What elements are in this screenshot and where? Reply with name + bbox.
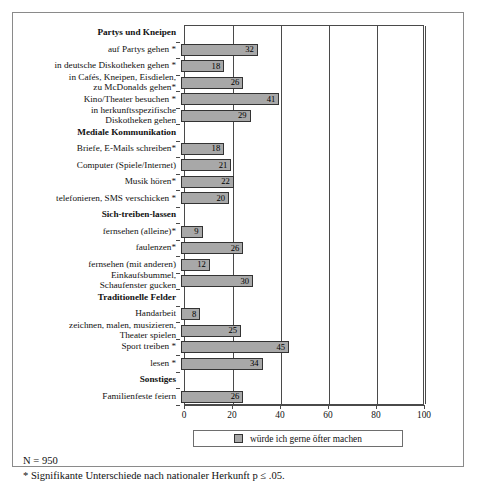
category-header-label: Partys und Kneipen — [27, 28, 180, 38]
bar-zone: 32 — [180, 42, 420, 59]
bar: 26 — [181, 242, 243, 254]
bar-zone: 21 — [180, 157, 420, 174]
bar: 30 — [181, 275, 253, 287]
x-tick-label-40: 40 — [275, 410, 284, 421]
row-label: auf Partys gehen * — [27, 45, 180, 55]
chart-row: in Cafés, Kneipen, Eisdielen, zu McDonal… — [27, 75, 424, 92]
bar-value-label: 20 — [216, 194, 228, 203]
category-header-row: Traditionelle Felder — [27, 289, 424, 306]
category-header-label: Mediale Kommunikation — [27, 128, 180, 138]
bar: 29 — [181, 110, 251, 122]
row-label: Familienfeste feiern — [27, 392, 180, 402]
bar-zone — [180, 289, 420, 306]
x-tick-20 — [232, 405, 233, 409]
chart-legend: würde ich gerne öfter machen — [193, 430, 403, 447]
bar-zone: 12 — [180, 256, 420, 273]
bar-value-label: 21 — [219, 161, 231, 170]
bar: 26 — [181, 391, 243, 403]
chart-row: faulenzen*26 — [27, 240, 424, 257]
category-header-row: Sich-treiben-lassen — [27, 207, 424, 224]
bar-value-label: 41 — [267, 95, 279, 104]
x-axis: 020406080100 — [184, 405, 424, 427]
x-tick-label-20: 20 — [227, 410, 236, 421]
bar: 20 — [181, 192, 229, 204]
row-label: Musik hören* — [27, 177, 180, 187]
figure-frame: Partys und Kneipenauf Partys gehen *32in… — [12, 12, 464, 467]
chart-rows: Partys und Kneipenauf Partys gehen *32in… — [27, 25, 424, 405]
row-label: Handarbeit — [27, 309, 180, 319]
row-label: Computer (Spiele/Internet) — [27, 161, 180, 171]
bar: 12 — [181, 259, 210, 271]
significance-note: * Signifikante Unterschiede nach nationa… — [23, 468, 443, 483]
legend-swatch-icon — [234, 434, 243, 443]
bar-zone: 26 — [180, 75, 420, 92]
bar: 34 — [181, 358, 263, 370]
bar-value-label: 45 — [276, 343, 288, 352]
chart-row: Einkaufsbummel, Schaufenster gucken30 — [27, 273, 424, 290]
bar: 18 — [181, 143, 224, 155]
bar-zone: 34 — [180, 355, 420, 372]
chart-row: auf Partys gehen *32 — [27, 42, 424, 59]
bar-zone: 25 — [180, 322, 420, 339]
bar-zone: 20 — [180, 190, 420, 207]
bar-zone: 30 — [180, 273, 420, 290]
bar: 9 — [181, 226, 203, 238]
x-tick-label-100: 100 — [417, 410, 431, 421]
bar: 26 — [181, 77, 243, 89]
bar-value-label: 30 — [240, 277, 252, 286]
row-label: fernsehen (mit anderen) — [27, 260, 180, 270]
bar-zone — [180, 207, 420, 224]
row-label: Sport treiben * — [27, 342, 180, 352]
row-label: in deutsche Diskotheken gehen * — [27, 61, 180, 71]
bar-value-label: 18 — [212, 144, 224, 153]
legend-label: würde ich gerne öfter machen — [250, 434, 362, 444]
chart-row: Sport treiben *45 — [27, 339, 424, 356]
bar: 45 — [181, 341, 289, 353]
row-label: fernsehen (alleine)* — [27, 227, 180, 237]
bar-zone — [180, 372, 420, 389]
bar: 22 — [181, 176, 234, 188]
bar-zone: 22 — [180, 174, 420, 191]
bar: 21 — [181, 159, 231, 171]
bar-zone: 41 — [180, 91, 420, 108]
bar-zone: 18 — [180, 58, 420, 75]
bar-value-label: 25 — [228, 326, 240, 335]
bar-value-label: 12 — [197, 260, 209, 269]
chart-row: Musik hören*22 — [27, 174, 424, 191]
category-header-label: Sich-treiben-lassen — [27, 210, 180, 220]
x-tick-label-0: 0 — [182, 410, 187, 421]
bar: 25 — [181, 325, 241, 337]
row-label: Kino/Theater besuchen * — [27, 95, 180, 105]
bar: 8 — [181, 308, 200, 320]
category-header-label: Traditionelle Felder — [27, 293, 180, 303]
category-header-row: Partys und Kneipen — [27, 25, 424, 42]
row-label: Einkaufsbummel, Schaufenster gucken — [27, 271, 180, 290]
bar: 41 — [181, 93, 279, 105]
chart-row: Briefe, E-Mails schreiben*18 — [27, 141, 424, 158]
bar-value-label: 34 — [250, 359, 262, 368]
category-header-label: Sonstiges — [27, 375, 180, 385]
row-tick — [176, 405, 180, 406]
bar-zone: 26 — [180, 240, 420, 257]
gridline-100 — [425, 26, 426, 404]
bar-zone: 45 — [180, 339, 420, 356]
row-label: Briefe, E-Mails schreiben* — [27, 144, 180, 154]
bar-value-label: 18 — [212, 62, 224, 71]
bar-zone — [180, 25, 420, 42]
x-tick-100 — [424, 405, 425, 409]
row-label: lesen * — [27, 359, 180, 369]
bar: 32 — [181, 44, 258, 56]
chart-row: fernsehen (alleine)*9 — [27, 223, 424, 240]
bar-zone: 9 — [180, 223, 420, 240]
row-label: telefonieren, SMS verschicken * — [27, 194, 180, 204]
row-label: in Cafés, Kneipen, Eisdielen, zu McDonal… — [27, 73, 180, 92]
chart-row: telefonieren, SMS verschicken *20 — [27, 190, 424, 207]
chart-row: lesen *34 — [27, 355, 424, 372]
bar-value-label: 9 — [194, 227, 201, 236]
bar-value-label: 26 — [231, 244, 243, 253]
x-tick-40 — [280, 405, 281, 409]
x-tick-label-60: 60 — [323, 410, 332, 421]
bar-zone: 26 — [180, 388, 420, 405]
category-header-row: Mediale Kommunikation — [27, 124, 424, 141]
